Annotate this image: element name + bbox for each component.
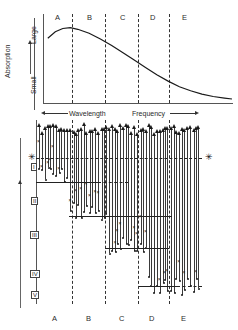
ray-termination-dot (136, 250, 138, 252)
top-chart-panel: Absorption Large Small A B C D E Wavelen… (0, 0, 238, 120)
step-line-b (69, 216, 172, 217)
frequency-label: Frequency (132, 110, 165, 117)
ray-absorption-x-marker: × (118, 221, 121, 226)
ray-absorption-x-marker: × (57, 166, 60, 171)
ray-absorption-x-marker: × (96, 190, 99, 195)
ray-termination-dot (115, 251, 117, 253)
atmospheric-absorption-figure: Absorption Large Small A B C D E Wavelen… (0, 0, 238, 330)
ray-arrow-head-icon (121, 126, 125, 130)
ray-termination-dot (104, 217, 106, 219)
ray-absorption-x-marker: × (177, 259, 180, 264)
ray-arrow-head-icon (40, 131, 44, 135)
incident-ray (190, 129, 191, 287)
star-marker-left-icon: ✳ (28, 153, 36, 162)
step-line-c (105, 248, 169, 249)
ray-termination-dot (159, 292, 161, 294)
incident-ray (109, 131, 110, 254)
incident-ray (154, 136, 155, 293)
ray-arrow-head-icon (129, 131, 133, 135)
ray-termination-dot (179, 280, 181, 282)
ray-termination-dot (59, 172, 61, 174)
incident-ray (128, 128, 129, 245)
ray-arrow-head-icon (149, 125, 153, 129)
step-line-d (139, 286, 177, 287)
incident-ray (81, 131, 82, 217)
ray-absorption-x-marker: × (40, 164, 43, 169)
ray-arrow-head-icon (196, 125, 200, 129)
ray-absorption-x-marker: × (113, 240, 116, 245)
incident-ray (141, 132, 142, 244)
incident-ray (102, 131, 103, 220)
ray-termination-dot (83, 211, 85, 213)
incident-ray (115, 131, 116, 252)
ray-arrow-head-icon (144, 129, 148, 133)
ray-termination-dot (196, 278, 198, 280)
ray-arrow-head-icon (79, 127, 83, 131)
ray-termination-dot (52, 173, 54, 175)
incident-ray (95, 131, 96, 214)
layer-marker-i: I (31, 163, 37, 171)
ray-termination-dot (38, 168, 40, 170)
ray-arrow-head-icon (135, 132, 139, 136)
absorption-curve (0, 0, 238, 120)
ray-absorption-x-marker: × (79, 186, 82, 191)
ray-arrow-head-icon (177, 131, 181, 135)
ray-absorption-x-marker: × (158, 277, 161, 282)
incident-ray (165, 130, 166, 280)
ray-termination-dot (70, 210, 72, 212)
incident-ray (143, 131, 144, 252)
ray-termination-dot (101, 219, 103, 221)
ray-termination-dot (75, 217, 77, 219)
top-reference-line (36, 158, 202, 159)
ray-termination-dot (122, 237, 124, 239)
ray-termination-dot (163, 282, 165, 284)
ray-arrow-head-icon (126, 124, 130, 128)
incident-ray (171, 130, 172, 291)
ray-termination-dot (174, 292, 176, 294)
incident-ray (198, 129, 199, 288)
bottom-band-label-c: C (119, 314, 124, 323)
step-line-d-dashed (177, 286, 202, 287)
bottom-band-label-d: D (149, 314, 154, 323)
wavelength-label: Wavelength (69, 110, 106, 117)
ray-arrow-head-icon (96, 131, 100, 135)
ray-absorption-x-marker: × (88, 193, 91, 198)
incident-ray (120, 127, 121, 249)
ray-termination-dot (45, 179, 47, 181)
incident-ray (64, 132, 65, 182)
ray-termination-dot (41, 169, 43, 171)
ray-absorption-x-marker: × (116, 228, 119, 233)
ray-termination-dot (128, 244, 130, 246)
ray-absorption-x-marker: × (69, 198, 72, 203)
ray-arrow-head-icon (82, 122, 86, 126)
incident-ray (131, 135, 132, 240)
ray-termination-dot (130, 239, 132, 241)
ray-termination-dot (89, 212, 91, 214)
layer-marker-iii: III (30, 231, 39, 239)
ray-termination-dot (98, 210, 100, 212)
ray-termination-dot (198, 288, 200, 290)
ray-arrow-head-icon (172, 124, 176, 128)
incident-ray (67, 132, 68, 178)
layer-marker-v: V (31, 291, 39, 299)
incident-ray (78, 132, 79, 205)
incident-ray (184, 132, 185, 290)
ray-termination-dot (55, 175, 57, 177)
ray-termination-dot (140, 243, 142, 245)
ray-arrow-head-icon (132, 125, 136, 129)
ray-absorption-x-marker: × (165, 268, 168, 273)
star-marker-right-icon: ✳ (205, 153, 213, 162)
incident-ray-layer: ×××××××××××××××××××××××××× (0, 118, 238, 318)
incident-ray (90, 133, 91, 213)
ray-absorption-x-marker: × (194, 269, 197, 274)
ray-termination-dot (175, 278, 177, 280)
incident-ray (45, 130, 46, 179)
incident-ray (53, 127, 54, 173)
wavelength-arrow-shaft (44, 113, 68, 114)
layer-marker-iv: IV (30, 270, 40, 278)
step-line-a (36, 182, 98, 183)
ray-termination-dot (170, 290, 172, 292)
ray-absorption-x-marker: × (135, 231, 138, 236)
ray-absorption-x-marker: × (37, 139, 40, 144)
incident-ray (84, 126, 85, 212)
